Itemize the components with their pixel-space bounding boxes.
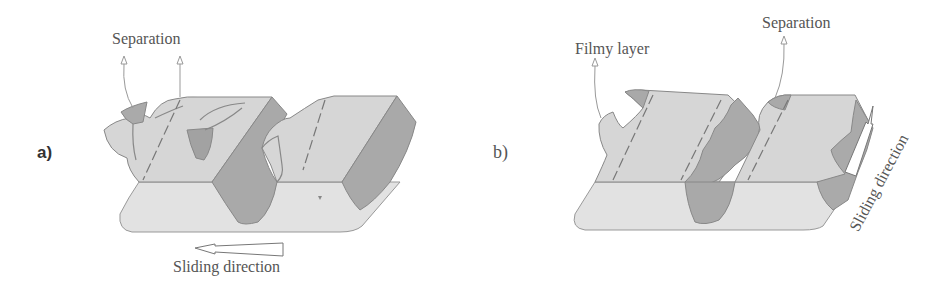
separation-label-b: Separation [762,14,830,32]
sliding-direction-arrow-left [195,243,283,256]
sliding-direction-label-a: Sliding direction [173,258,280,276]
filmy-layer-arrow [595,66,601,118]
panel-a-illustration [0,0,473,281]
panel-b-illustration [473,0,946,281]
separation-arrow-b [775,44,784,98]
panel-b: b) Filmy layer Separation Sliding direct… [473,0,946,281]
separation-label-a: Separation [112,30,180,48]
panel-a: a) Separation Sl [0,0,473,281]
separation-arrow-1 [124,64,133,108]
filmy-layer-label: Filmy layer [575,40,649,58]
